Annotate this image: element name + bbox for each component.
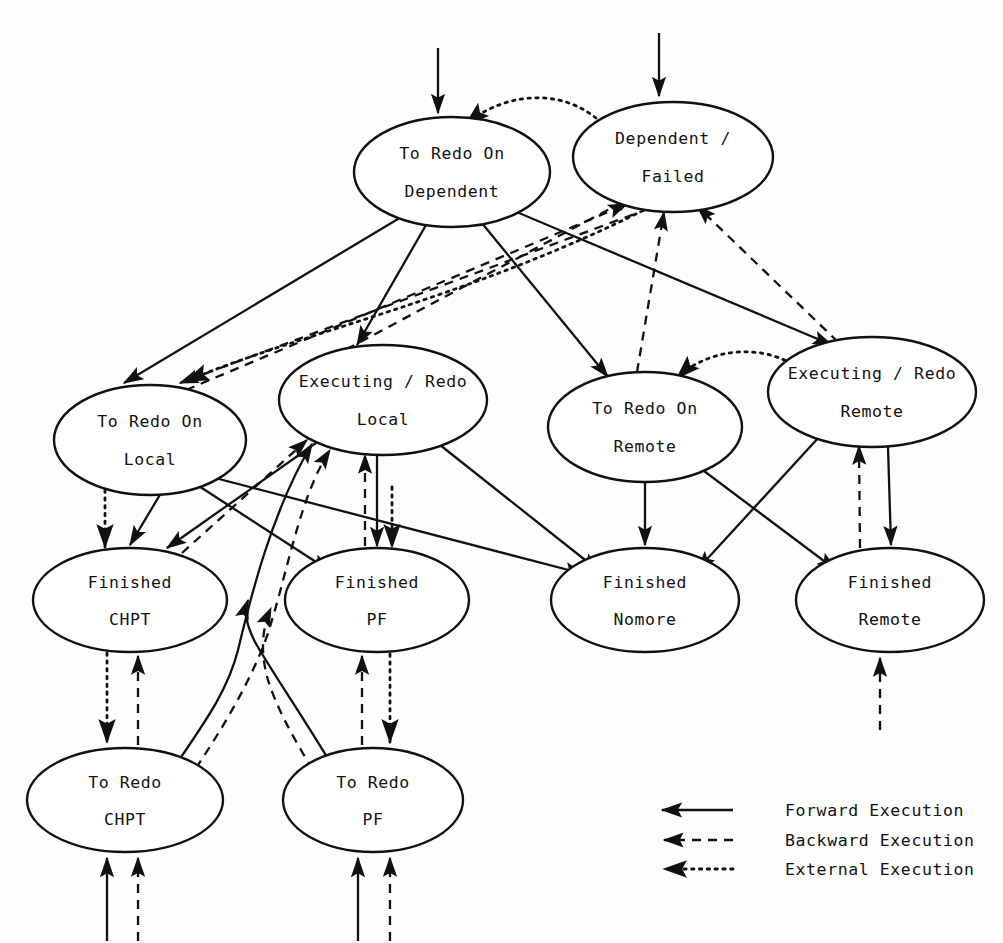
edge-to-redo-on-local-finished-pf [188, 479, 330, 571]
node-to-redo-chpt[interactable]: To Redo CHPT [27, 748, 223, 852]
legend-label-forward: Forward Execution [785, 801, 964, 820]
edge-executing-redo-remote-dependent-failed [697, 206, 838, 342]
node-label-to-redo-on-local-line2: Local [124, 450, 177, 469]
node-label-to-redo-on-dependent-line1: To Redo On [399, 144, 504, 163]
node-shape-to-redo-on-dependent[interactable] [354, 117, 550, 227]
node-shape-to-redo-on-remote[interactable] [548, 372, 742, 482]
node-shape-to-redo-pf[interactable] [283, 748, 463, 852]
node-finished-chpt[interactable]: Finished CHPT [33, 548, 227, 652]
node-to-redo-on-remote[interactable]: To Redo On Remote [548, 372, 742, 482]
node-label-to-redo-chpt-line2: CHPT [104, 810, 146, 829]
node-executing-redo-remote[interactable]: Executing / Redo Remote [768, 337, 976, 447]
node-label-executing-redo-remote-line2: Remote [840, 402, 903, 421]
node-label-executing-redo-local-line1: Executing / Redo [299, 372, 468, 391]
node-label-executing-redo-local-line2: Local [357, 410, 410, 429]
legend-label-backward: Backward Execution [785, 831, 975, 850]
node-shape-finished-remote[interactable] [796, 548, 984, 652]
node-shape-executing-redo-remote[interactable] [768, 337, 976, 447]
legend: Forward Execution Backward Execution Ext… [662, 801, 975, 879]
node-shape-executing-redo-local[interactable] [279, 345, 487, 455]
node-shape-finished-pf[interactable] [285, 548, 469, 652]
diagram-canvas: To Redo On Dependent Dependent / Failed … [0, 0, 1003, 943]
node-label-to-redo-chpt-line1: To Redo [88, 773, 162, 792]
node-executing-redo-local[interactable]: Executing / Redo Local [279, 345, 487, 455]
node-label-to-redo-on-remote-line1: To Redo On [592, 399, 697, 418]
node-label-to-redo-pf-line2: PF [362, 810, 383, 829]
node-label-dependent-failed-line2: Failed [641, 167, 704, 186]
node-label-finished-pf-line2: PF [366, 610, 387, 629]
node-finished-nomore[interactable]: Finished Nomore [551, 548, 739, 652]
node-shape-to-redo-chpt[interactable] [27, 748, 223, 852]
node-label-finished-nomore-line1: Finished [603, 573, 687, 592]
node-dependent-failed[interactable]: Dependent / Failed [573, 102, 773, 212]
node-label-to-redo-on-remote-line2: Remote [613, 437, 676, 456]
edge-to-redo-on-remote-dependent-failed [637, 212, 664, 372]
node-to-redo-on-dependent[interactable]: To Redo On Dependent [354, 117, 550, 227]
node-finished-pf[interactable]: Finished PF [285, 548, 469, 652]
node-label-finished-nomore-line2: Nomore [613, 610, 676, 629]
node-label-finished-chpt-line1: Finished [88, 573, 172, 592]
node-finished-remote[interactable]: Finished Remote [796, 548, 984, 652]
edge-to-redo-on-remote-finished-remote [700, 468, 836, 570]
node-to-redo-on-local[interactable]: To Redo On Local [54, 385, 246, 495]
legend-item-backward: Backward Execution [664, 831, 975, 850]
edge-finished-remote-executing-redo-remote [859, 446, 860, 548]
node-label-to-redo-on-local-line1: To Redo On [97, 412, 202, 431]
node-shape-finished-chpt[interactable] [33, 548, 227, 652]
node-label-finished-remote-line2: Remote [858, 610, 921, 629]
legend-item-forward: Forward Execution [662, 801, 964, 820]
edge-to-redo-on-dependent-to-redo-on-remote [481, 222, 608, 377]
node-to-redo-pf[interactable]: To Redo PF [283, 748, 463, 852]
legend-item-external: External Execution [664, 860, 975, 879]
node-label-finished-chpt-line2: CHPT [109, 610, 151, 629]
node-layer: To Redo On Dependent Dependent / Failed … [27, 102, 984, 852]
node-label-finished-pf-line1: Finished [335, 573, 419, 592]
node-label-to-redo-on-dependent-line2: Dependent [405, 182, 500, 201]
edge-executing-redo-remote-finished-remote [888, 447, 891, 545]
edge-to-redo-on-local-finished-chpt [130, 493, 161, 545]
state-transition-diagram: To Redo On Dependent Dependent / Failed … [0, 0, 1003, 943]
edge-to-redo-on-dependent-executing-redo-local [357, 225, 426, 345]
node-label-dependent-failed-line1: Dependent / [615, 129, 731, 148]
node-label-executing-redo-remote-line1: Executing / Redo [788, 364, 957, 383]
legend-label-external: External Execution [785, 860, 975, 879]
node-shape-finished-nomore[interactable] [551, 548, 739, 652]
node-shape-to-redo-on-local[interactable] [54, 385, 246, 495]
edge-to-redo-on-dependent-executing-redo-remote [500, 205, 832, 345]
node-label-finished-remote-line1: Finished [848, 573, 932, 592]
node-shape-dependent-failed[interactable] [573, 102, 773, 212]
node-label-to-redo-pf-line1: To Redo [336, 773, 410, 792]
